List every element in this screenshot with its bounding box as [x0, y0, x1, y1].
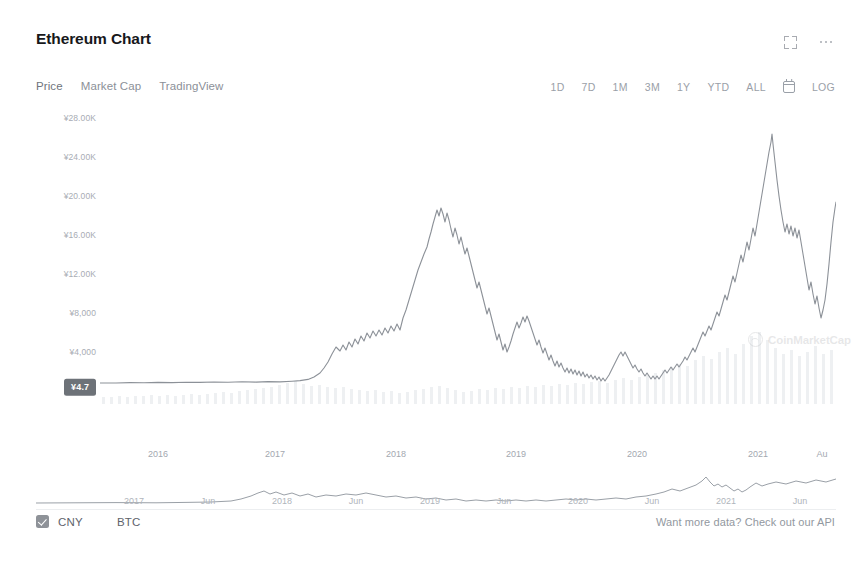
x-tick-2017: 2017: [265, 449, 285, 459]
range-1m[interactable]: 1M: [613, 81, 628, 93]
x-axis: 2016 2017 2018 2019 2020 2021 Au: [100, 449, 836, 465]
nav-tick-2018: 2018: [272, 496, 292, 506]
ethereum-chart-card: Ethereum Chart Price Market Cap TradingV…: [0, 0, 859, 565]
currency-label-btc: BTC: [117, 516, 141, 528]
tab-market-cap[interactable]: Market Cap: [81, 80, 141, 92]
log-scale-toggle[interactable]: LOG: [812, 81, 835, 93]
more-icon[interactable]: [817, 33, 835, 51]
nav-tick-2020: 2020: [568, 496, 588, 506]
range-7d[interactable]: 7D: [582, 81, 596, 93]
x-tick-2018: 2018: [386, 449, 406, 459]
y-tick-24k: ¥24.00K: [64, 152, 96, 162]
price-line: [100, 134, 836, 383]
card-footer: CNY BTC Want more data? Check out our AP…: [36, 515, 835, 537]
y-tick-8000: ¥8,000: [69, 308, 96, 318]
chart-canvas[interactable]: CoinMarketCap: [100, 104, 836, 449]
range-1y[interactable]: 1Y: [677, 81, 690, 93]
range-all[interactable]: ALL: [746, 81, 766, 93]
header-actions: [781, 33, 835, 51]
nav-tick-2017: 2017: [124, 496, 144, 506]
nav-tick-jun-2021: Jun: [793, 496, 808, 506]
x-tick-aug: Au: [816, 449, 827, 459]
y-tick-16k: ¥16.00K: [64, 230, 96, 240]
currency-option-btc[interactable]: BTC: [117, 516, 141, 528]
chart-plot-area: ¥28.00K ¥24.00K ¥20.00K ¥16.00K ¥12.00K …: [36, 104, 836, 449]
y-tick-12k: ¥12.00K: [64, 269, 96, 279]
card-header: Ethereum Chart: [36, 30, 835, 60]
currency-option-cny[interactable]: CNY: [36, 515, 83, 528]
x-tick-2016: 2016: [148, 449, 168, 459]
checkbox-checked-icon[interactable]: [36, 515, 49, 528]
volume-bars: [102, 332, 833, 404]
current-price-badge: ¥4.7: [64, 379, 96, 396]
x-tick-2019: 2019: [506, 449, 526, 459]
range-selector: 1D 7D 1M 3M 1Y YTD ALL LOG: [551, 80, 835, 93]
nav-tick-2019: 2019: [420, 496, 440, 506]
nav-tick-jun-2019: Jun: [497, 496, 512, 506]
price-line-svg: [100, 104, 836, 449]
currency-label-cny: CNY: [58, 516, 83, 528]
nav-tick-2021: 2021: [716, 496, 736, 506]
y-axis: ¥28.00K ¥24.00K ¥20.00K ¥16.00K ¥12.00K …: [36, 104, 100, 449]
nav-tick-jun-2020: Jun: [645, 496, 660, 506]
y-tick-4000: ¥4,000: [69, 347, 96, 357]
tab-tradingview[interactable]: TradingView: [159, 80, 223, 92]
tab-price[interactable]: Price: [36, 80, 63, 92]
page-title: Ethereum Chart: [36, 30, 835, 48]
range-1d[interactable]: 1D: [551, 81, 565, 93]
nav-tick-jun-2017: Jun: [201, 496, 216, 506]
calendar-icon[interactable]: [783, 81, 795, 93]
x-tick-2021: 2021: [748, 449, 768, 459]
y-tick-28k: ¥28.00K: [64, 113, 96, 123]
expand-icon[interactable]: [781, 33, 799, 51]
chart-navigator[interactable]: 2017 Jun 2018 Jun 2019 Jun 2020 Jun 2021…: [36, 472, 836, 510]
range-ytd[interactable]: YTD: [707, 81, 729, 93]
range-3m[interactable]: 3M: [645, 81, 660, 93]
x-tick-2020: 2020: [627, 449, 647, 459]
nav-tick-jun-2018: Jun: [349, 496, 364, 506]
y-tick-20k: ¥20.00K: [64, 191, 96, 201]
chart-toolbar: Price Market Cap TradingView 1D 7D 1M 3M…: [36, 80, 835, 100]
api-note[interactable]: Want more data? Check out our API: [656, 516, 835, 528]
